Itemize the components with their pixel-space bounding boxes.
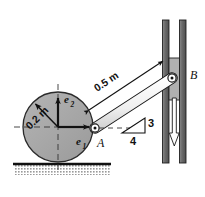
point-b-label: B <box>190 68 198 82</box>
e1-subscript: 1 <box>83 142 87 151</box>
slope-triangle: 3 4 <box>122 117 154 147</box>
pin-joint-b <box>168 74 176 82</box>
mechanics-figure: 0.2 m e 2 e 1 <box>0 0 205 197</box>
e2-subscript: 2 <box>70 100 75 109</box>
e2-label: e <box>64 93 69 105</box>
guide-rail-left <box>163 20 170 163</box>
slope-run-label: 4 <box>130 135 137 147</box>
pin-joint-a <box>91 124 99 132</box>
guide-rail-right <box>180 20 187 163</box>
motion-arrow-down <box>169 98 179 146</box>
slope-triangle-outline <box>122 118 145 133</box>
figure-canvas: 0.2 m e 2 e 1 <box>0 0 205 197</box>
ground <box>13 164 111 175</box>
vertical-guide <box>163 20 187 163</box>
point-a-label: A <box>96 136 105 150</box>
slope-rise-label: 3 <box>148 117 154 129</box>
e1-label: e <box>76 135 81 147</box>
ground-hatching <box>14 165 110 175</box>
